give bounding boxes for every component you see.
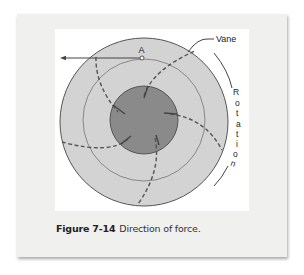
point-a-label: A bbox=[139, 45, 145, 55]
vane-leader-line bbox=[188, 39, 214, 52]
figure-number: Figure 7-14 bbox=[56, 223, 115, 234]
svg-text:o: o bbox=[235, 98, 240, 108]
rotation-label: R o t a t i o n bbox=[229, 87, 241, 169]
svg-text:R: R bbox=[233, 87, 239, 97]
rotation-arc-bottom bbox=[214, 166, 228, 186]
point-a-marker bbox=[140, 56, 144, 60]
vane-label: Vane bbox=[216, 34, 236, 44]
figure-caption: Figure 7-14Direction of force. bbox=[56, 223, 201, 234]
svg-text:a: a bbox=[236, 119, 241, 129]
svg-text:t: t bbox=[236, 129, 239, 139]
svg-text:t: t bbox=[236, 108, 239, 118]
svg-text:i: i bbox=[236, 139, 238, 149]
figure-title: Direction of force. bbox=[119, 223, 200, 234]
svg-text:n: n bbox=[229, 158, 237, 169]
